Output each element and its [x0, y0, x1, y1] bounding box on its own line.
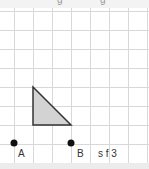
grid-diagram — [0, 0, 149, 163]
point-a — [11, 140, 18, 147]
point-b — [68, 140, 75, 147]
grid-lines — [0, 8, 149, 163]
bottom-bar — [0, 163, 149, 169]
caption-label: s f 3 — [98, 148, 117, 159]
point-a-label: A — [18, 148, 25, 159]
point-b-label: B — [77, 148, 84, 159]
